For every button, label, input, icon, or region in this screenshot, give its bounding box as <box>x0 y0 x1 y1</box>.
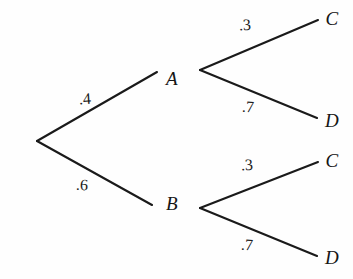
edge-root-to-b <box>37 141 152 205</box>
edge-a-to-c <box>200 20 318 70</box>
edge-probability-b-d: .7 <box>241 237 254 254</box>
probability-tree-figure: A B C D C D .4 .6 .3 .7 .3 .7 <box>0 0 353 279</box>
edge-probability-root-a: .4 <box>78 91 91 108</box>
node-label-c-top: C <box>326 9 339 28</box>
edge-a-to-d <box>200 70 317 118</box>
edge-probability-root-b: .6 <box>76 177 89 194</box>
node-label-d-top: D <box>325 111 339 130</box>
node-label-d-bottom: D <box>325 248 339 267</box>
node-label-b: B <box>166 194 178 213</box>
edge-b-to-c <box>200 162 318 208</box>
node-label-c-bottom: C <box>326 151 339 170</box>
node-label-a: A <box>166 69 178 88</box>
tree-edges-svg <box>0 0 353 279</box>
edge-probability-a-d: .7 <box>242 99 255 116</box>
edge-b-to-d <box>200 208 317 256</box>
edge-root-to-a <box>37 72 157 141</box>
edge-probability-b-c: .3 <box>240 157 253 174</box>
edge-probability-a-c: .3 <box>238 17 251 34</box>
